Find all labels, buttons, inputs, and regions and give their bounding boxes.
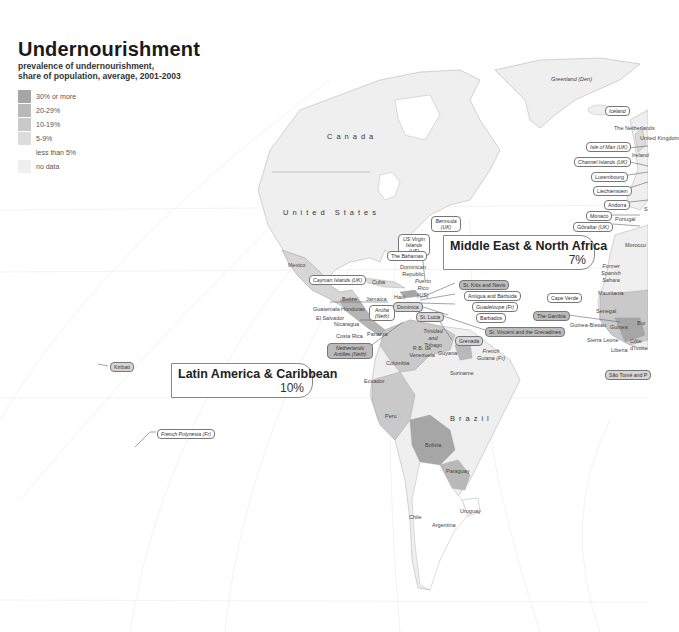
pill-channel-islands: Channel Islands (UK) bbox=[574, 157, 631, 167]
pill-bermuda: Bermuda (UK) bbox=[431, 216, 461, 232]
label-panama: Panama bbox=[367, 331, 388, 337]
pill-st-lucia: St. Lucia bbox=[416, 312, 444, 322]
label-portugal: Portugal bbox=[615, 216, 636, 222]
label-french-guiana: French Guiana (Fr) bbox=[476, 348, 506, 362]
pill-st-vincent-grenadines: St. Vincent and the Grenadines bbox=[485, 327, 565, 337]
callout-value: 7% bbox=[450, 253, 586, 267]
legend-swatch bbox=[18, 146, 31, 159]
label-senegal: Senegal bbox=[596, 308, 616, 314]
pill-st-kitts-nevis: St. Kitts and Nevis bbox=[459, 280, 509, 290]
label-cote-divoire: Côte d'Ivoire bbox=[630, 338, 648, 352]
callout-value: 10% bbox=[178, 381, 304, 395]
callout-mena: Middle East & North Africa 7% bbox=[443, 235, 595, 270]
legend-item-less-5: less than 5% bbox=[18, 145, 76, 159]
callout-title: Latin America & Caribbean bbox=[178, 367, 304, 381]
pill-dominica: Dominica bbox=[393, 302, 423, 312]
legend-swatch bbox=[18, 90, 31, 103]
label-guatemala: Guatemala bbox=[313, 306, 340, 312]
legend: 30% or more 20-29% 10-19% 5-9% less than… bbox=[18, 89, 76, 173]
pill-the-gambia: The Gambia bbox=[533, 311, 570, 321]
label-guinea-bissau: Guinea-Bissau bbox=[570, 322, 606, 328]
label-uk: United Kingdom bbox=[640, 135, 679, 141]
pill-grenada: Grenada bbox=[455, 336, 483, 346]
label-belize: Belize bbox=[342, 296, 357, 302]
pill-sao-tome: São Tomé and P bbox=[605, 370, 651, 380]
label-suriname: Suriname bbox=[450, 370, 474, 376]
legend-swatch bbox=[18, 132, 31, 145]
label-liberia: Liberia bbox=[611, 347, 628, 353]
legend-item-10-19: 10-19% bbox=[18, 117, 76, 131]
label-cuba: Cuba bbox=[372, 279, 385, 285]
pill-cape-verde: Cape Verde bbox=[547, 293, 582, 303]
label-burkina: Bur bbox=[637, 320, 646, 326]
label-puerto-rico: Puerto Rico (US) bbox=[412, 278, 434, 299]
pill-gibraltar: Gibraltar (UK) bbox=[573, 222, 613, 232]
pill-isle-of-man: Isle of Man (UK) bbox=[586, 142, 631, 152]
label-costa-rica: Costa Rica bbox=[336, 333, 363, 339]
legend-item-20-29: 20-29% bbox=[18, 103, 76, 117]
label-mexico: Mexico bbox=[288, 262, 305, 268]
pill-cayman-islands: Cayman Islands (UK) bbox=[309, 275, 366, 285]
pill-monaco: Monaco bbox=[586, 211, 612, 221]
legend-label: 30% or more bbox=[36, 93, 76, 100]
legend-swatch bbox=[18, 104, 31, 117]
label-jamaica: Jamaica bbox=[366, 296, 386, 302]
label-ireland: Ireland bbox=[632, 152, 649, 158]
pill-french-polynesia: French Polynesia (Fr) bbox=[157, 429, 215, 439]
label-netherlands: The Netherlands bbox=[614, 125, 655, 131]
pill-aruba: Aruba (Neth) bbox=[369, 305, 395, 321]
label-dominican-republic: Dominican Republic bbox=[398, 264, 428, 278]
label-brazil: Brazil bbox=[450, 414, 493, 423]
label-guinea: Guinea bbox=[610, 324, 628, 330]
map-subtitle: prevalence of undernourishment, share of… bbox=[18, 61, 238, 81]
label-argentina: Argentina bbox=[432, 522, 456, 528]
label-bolivia: Bolivia bbox=[425, 442, 441, 448]
legend-item-5-9: 5-9% bbox=[18, 131, 76, 145]
label-peru: Peru bbox=[385, 413, 397, 419]
pill-antigua-barbuda: Antigua and Barbuda bbox=[464, 291, 521, 301]
legend-label: less than 5% bbox=[36, 149, 76, 156]
legend-label: 10-19% bbox=[36, 121, 60, 128]
legend-label: no data bbox=[36, 163, 59, 170]
pill-guadeloupe: Guadeloupe (Fr) bbox=[472, 302, 518, 312]
label-sierra-leone: Sierra Leone bbox=[587, 337, 619, 343]
legend-item-30plus: 30% or more bbox=[18, 89, 76, 103]
subtitle-line-1: prevalence of undernourishment, bbox=[18, 61, 238, 71]
label-colombia: Colombia bbox=[386, 360, 409, 366]
label-western-sahara: Former Spanish Sahara bbox=[597, 263, 625, 284]
label-honduras: Honduras bbox=[341, 306, 365, 312]
label-nicaragua: Nicaragua bbox=[334, 321, 359, 327]
pill-barbados: Barbados bbox=[476, 313, 506, 323]
label-morocco: Morocco bbox=[625, 242, 646, 248]
greenland bbox=[495, 58, 640, 128]
label-venezuela: R.B. de Venezuela bbox=[407, 345, 437, 359]
label-chile: Chile bbox=[409, 514, 422, 520]
legend-item-no-data: no data bbox=[18, 159, 76, 173]
label-mauritania: Mauritania bbox=[598, 290, 624, 296]
pill-andorra: Andorra bbox=[604, 200, 630, 210]
pill-netherlands-antilles: Netherlands Antilles (Neth) bbox=[327, 343, 373, 359]
legend-swatch bbox=[18, 160, 31, 173]
label-uruguay: Uruguay bbox=[460, 508, 481, 514]
label-spain: S bbox=[644, 206, 648, 212]
callout-title: Middle East & North Africa bbox=[450, 239, 586, 253]
label-greenland: Greenland (Den) bbox=[551, 76, 592, 82]
callout-latin-america: Latin America & Caribbean 10% bbox=[171, 363, 313, 398]
map-title: Undernourishment bbox=[18, 38, 200, 61]
legend-swatch bbox=[18, 118, 31, 131]
label-paraguay: Paraguay bbox=[446, 468, 470, 474]
label-haiti: Haiti bbox=[394, 294, 405, 300]
subtitle-line-2: share of population, average, 2001-2003 bbox=[18, 71, 238, 81]
legend-label: 5-9% bbox=[36, 135, 52, 142]
label-ecuador: Ecuador bbox=[364, 378, 385, 384]
label-canada: Canada bbox=[327, 132, 377, 141]
legend-label: 20-29% bbox=[36, 107, 60, 114]
pill-kiribati: Kiribati bbox=[110, 362, 134, 372]
pill-iceland: Iceland bbox=[605, 106, 630, 116]
pill-luxembourg: Luxembourg bbox=[591, 172, 628, 182]
pill-liechtenstein: Liechtenstein bbox=[593, 186, 632, 196]
label-united-states: United States bbox=[283, 208, 380, 217]
pill-bahamas: The Bahamas bbox=[387, 251, 427, 261]
label-guyana: Guyana bbox=[438, 350, 457, 356]
